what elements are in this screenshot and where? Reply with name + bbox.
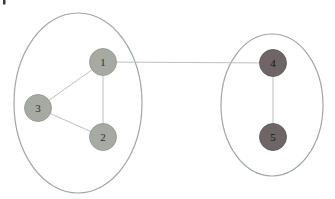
- node-label-1: 1: [100, 56, 106, 68]
- diagram-canvas: 12345: [0, 0, 335, 199]
- node-label-3: 3: [35, 102, 41, 114]
- node-label-4: 4: [270, 57, 276, 69]
- page-edge-artifact: [3, 0, 6, 5]
- graph-diagram: 12345: [0, 0, 335, 199]
- node-label-5: 5: [270, 131, 276, 143]
- node-label-2: 2: [100, 131, 106, 143]
- graph-edge-1-4: [103, 62, 273, 63]
